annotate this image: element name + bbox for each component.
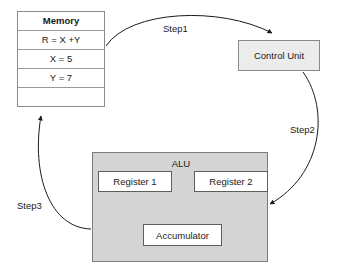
register-2-label: Register 2 [209, 176, 252, 187]
control-unit-label: Control Unit [254, 50, 304, 61]
register-1-label: Register 1 [113, 176, 156, 187]
memory-row-3 [18, 88, 104, 106]
control-unit-box: Control Unit [238, 40, 320, 71]
diagram-canvas: Memory R = X +Y X = 5 Y = 7 Control Unit… [0, 0, 339, 268]
memory-table-header: Memory [18, 12, 104, 31]
accumulator-label: Accumulator [156, 230, 209, 241]
memory-row-0: R = X +Y [18, 31, 104, 50]
memory-table: Memory R = X +Y X = 5 Y = 7 [17, 11, 105, 107]
memory-row-2: Y = 7 [18, 69, 104, 88]
step3-arrow [38, 116, 91, 229]
register-1-box: Register 1 [98, 171, 172, 192]
step2-arrow [270, 72, 318, 204]
alu-label: ALU [93, 158, 269, 169]
memory-row-1: X = 5 [18, 50, 104, 69]
step2-label: Step2 [290, 124, 315, 135]
step1-label: Step1 [163, 23, 188, 34]
accumulator-box: Accumulator [143, 224, 222, 246]
step3-label: Step3 [17, 200, 42, 211]
register-2-box: Register 2 [194, 171, 268, 192]
